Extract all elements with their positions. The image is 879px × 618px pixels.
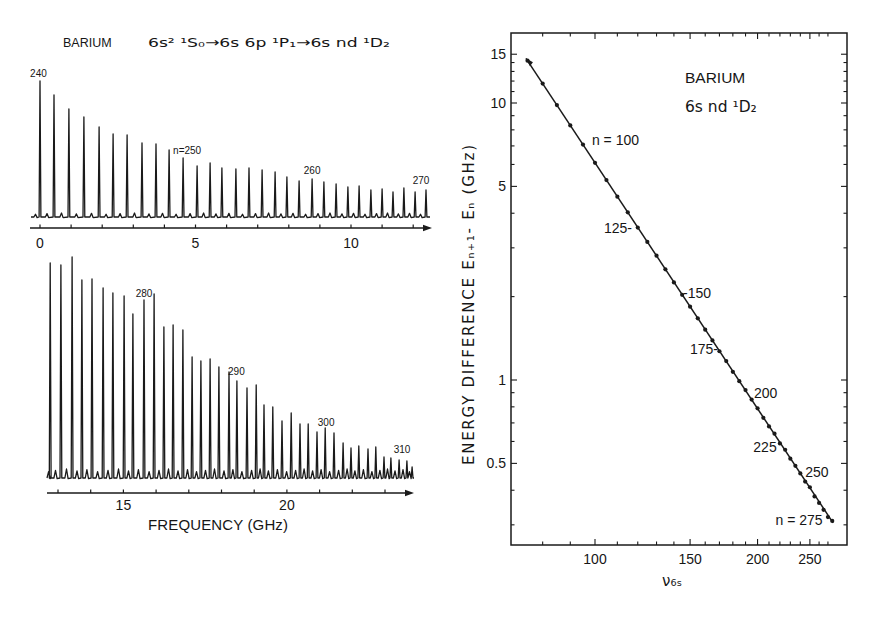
axis-arrow-icon xyxy=(423,225,432,231)
data-point xyxy=(793,464,797,468)
left-title-element: BARIUM xyxy=(63,36,112,50)
data-point xyxy=(568,123,572,127)
peak-label: 240 xyxy=(30,68,47,79)
figure: BARIUM 6s² ¹S₀→6s 6p ¹P₁→6s nd ¹D₂ 05102… xyxy=(0,0,879,618)
n-label: 250 xyxy=(805,464,829,480)
data-point xyxy=(636,225,640,229)
data-point xyxy=(817,501,821,505)
n-label: 175- xyxy=(690,341,718,357)
x-tick-label: 200 xyxy=(746,551,770,567)
y-tick-label: 0.5 xyxy=(487,455,507,471)
data-point xyxy=(808,485,812,489)
peak-label: n=250 xyxy=(173,145,202,156)
n-label: 125- xyxy=(604,220,632,236)
data-point xyxy=(812,494,816,498)
data-point xyxy=(731,370,735,374)
data-point xyxy=(626,210,630,214)
spectrum-top-panel: 0510240n=250260270 xyxy=(30,68,432,251)
data-point xyxy=(743,388,747,392)
data-point xyxy=(696,316,700,320)
data-point xyxy=(615,195,619,199)
n-label: n = 100 xyxy=(592,132,639,148)
data-point xyxy=(737,379,741,383)
peak-label: 300 xyxy=(318,417,335,428)
left-title-transition: 6s² ¹S₀→6s 6p ¹P₁→6s nd ¹D₂ xyxy=(148,35,390,50)
peak-label: 310 xyxy=(394,444,411,455)
n-label: 225 xyxy=(753,439,777,455)
y-tick-label: 10 xyxy=(490,95,506,111)
n-label: -150 xyxy=(683,285,711,301)
data-point xyxy=(555,103,559,107)
spectrum-bottom-panel: 1520280290300310 xyxy=(47,257,414,513)
data-point xyxy=(688,305,692,309)
frequency-axis-label: FREQUENCY (GHz) xyxy=(148,516,288,533)
peak-label: 290 xyxy=(228,366,245,377)
peak-label: 270 xyxy=(413,175,430,186)
data-point xyxy=(772,432,776,436)
data-point xyxy=(645,240,649,244)
x-tick-label: 150 xyxy=(678,551,702,567)
right-panel: 1001502002500.5151015n = 100125--150175-… xyxy=(460,33,847,590)
data-point xyxy=(663,267,667,271)
data-point xyxy=(798,471,802,475)
spectrum-trace xyxy=(31,81,430,218)
x-tick-label: 20 xyxy=(279,497,295,513)
data-point xyxy=(703,328,707,332)
data-point xyxy=(788,457,792,461)
peak-label: 260 xyxy=(304,165,321,176)
data-point xyxy=(783,448,787,452)
data-point xyxy=(724,359,728,363)
data-point xyxy=(755,406,759,410)
legend-element: BARIUM xyxy=(685,69,745,86)
x-axis-label: ν₆ₛ xyxy=(662,572,682,590)
axis-arrow-icon xyxy=(405,490,414,496)
y-axis-label: ENERGY DIFFERENCE Eₙ₊₁- Eₙ (GHz) xyxy=(460,145,478,465)
y-tick-label: 15 xyxy=(490,46,506,62)
fit-line xyxy=(526,58,833,523)
peak-label: 280 xyxy=(136,288,153,299)
x-tick-label: 15 xyxy=(116,497,132,513)
data-point xyxy=(778,441,782,445)
x-tick-label: 10 xyxy=(343,235,359,251)
data-point xyxy=(830,519,834,523)
energy-difference-plot: 1001502002500.5151015n = 100125--150175-… xyxy=(487,33,847,567)
left-panel: BARIUM 6s² ¹S₀→6s 6p ¹P₁→6s nd ¹D₂ 05102… xyxy=(30,35,432,533)
n-label: 200 xyxy=(754,385,778,401)
y-tick-label: 1 xyxy=(498,372,506,388)
y-tick-label: 5 xyxy=(498,178,506,194)
x-tick-label: 5 xyxy=(192,235,200,251)
data-point xyxy=(581,142,585,146)
data-point xyxy=(826,515,830,519)
n-label: n = 275 xyxy=(776,512,823,528)
data-point xyxy=(767,424,771,428)
data-point xyxy=(604,178,608,182)
data-point xyxy=(593,161,597,165)
x-tick-label: 0 xyxy=(36,235,44,251)
legend-series: 6s nd ¹D₂ xyxy=(685,98,757,116)
data-point xyxy=(672,280,676,284)
data-point xyxy=(761,416,765,420)
x-tick-label: 100 xyxy=(583,551,607,567)
data-point xyxy=(525,59,529,63)
data-point xyxy=(541,81,545,85)
x-tick-label: 250 xyxy=(798,551,822,567)
data-point xyxy=(654,254,658,258)
